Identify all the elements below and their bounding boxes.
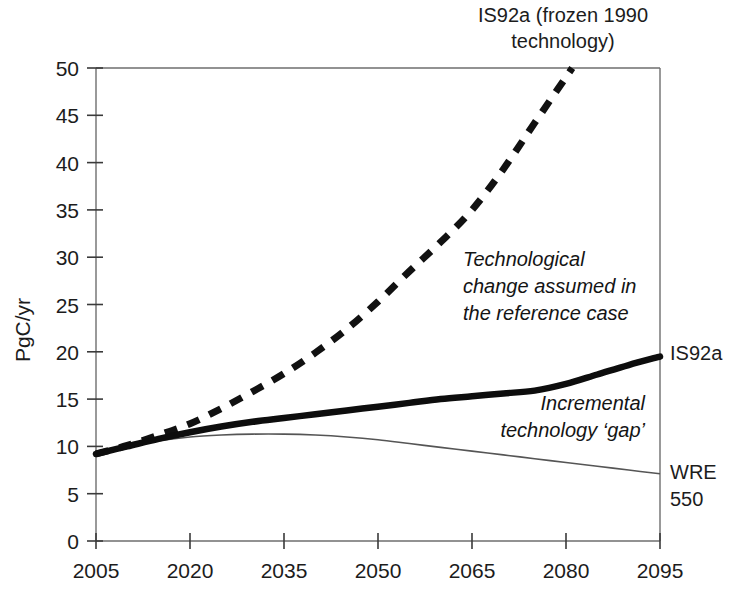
- chart-title: IS92a (frozen 1990 technology): [478, 4, 648, 52]
- series-label-550: 550: [670, 488, 703, 510]
- x-tick-label-2080: 2080: [543, 559, 590, 582]
- annotation-technology-gap-line-1: Incremental: [541, 392, 646, 414]
- y-tick-label-35: 35: [56, 199, 79, 222]
- chart-title-line-1: IS92a (frozen 1990: [478, 4, 648, 26]
- annotation-technology-gap-line-2: technology ‘gap’: [500, 419, 645, 441]
- y-tick-label-40: 40: [56, 152, 79, 175]
- x-tick-label-2095: 2095: [637, 559, 684, 582]
- x-tick-label-2005: 2005: [73, 559, 120, 582]
- annotation-reference-case-line-1: Technological: [463, 248, 585, 270]
- y-tick-label-45: 45: [56, 104, 79, 127]
- chart-figure: 50 45 40 35 30 25 20 15 10 5 0 2005 2020: [0, 0, 744, 601]
- y-tick-label-30: 30: [56, 246, 79, 269]
- y-tick-label-5: 5: [67, 483, 79, 506]
- y-axis-tick-labels: 50 45 40 35 30 25 20 15 10 5 0: [56, 57, 79, 553]
- annotation-reference-case-line-2: change assumed in: [463, 275, 636, 297]
- y-tick-label-50: 50: [56, 57, 79, 80]
- y-tick-label-20: 20: [56, 341, 79, 364]
- x-tick-label-2020: 2020: [167, 559, 214, 582]
- annotation-reference-case-line-3: the reference case: [463, 302, 629, 324]
- x-tick-label-2050: 2050: [355, 559, 402, 582]
- series-labels: IS92a WRE 550: [670, 342, 723, 510]
- series-label-wre: WRE: [670, 461, 717, 483]
- y-tick-label-25: 25: [56, 294, 79, 317]
- emissions-line-chart: 50 45 40 35 30 25 20 15 10 5 0 2005 2020: [0, 0, 744, 601]
- y-axis-ticks: [87, 68, 103, 541]
- y-tick-label-15: 15: [56, 388, 79, 411]
- x-axis-tick-labels: 2005 2020 2035 2050 2065 2080 2095: [73, 559, 684, 582]
- x-tick-label-2065: 2065: [449, 559, 496, 582]
- y-tick-label-0: 0: [67, 530, 79, 553]
- y-axis-title: PgC/yr: [11, 298, 34, 362]
- y-tick-label-10: 10: [56, 435, 79, 458]
- annotation-technology-gap: Incremental technology ‘gap’: [500, 392, 645, 441]
- annotation-reference-case: Technological change assumed in the refe…: [463, 248, 636, 324]
- chart-title-line-2: technology): [511, 30, 614, 52]
- x-tick-label-2035: 2035: [261, 559, 308, 582]
- series-label-is92a: IS92a: [670, 342, 723, 364]
